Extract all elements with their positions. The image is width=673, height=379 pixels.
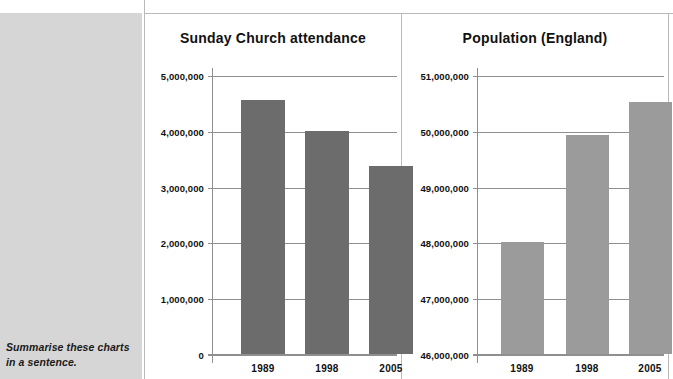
y-axis-label-church: 3,000,000 bbox=[161, 182, 204, 193]
gridline bbox=[213, 76, 397, 77]
bar-population-1998 bbox=[566, 135, 609, 354]
y-tick-mark bbox=[208, 243, 213, 244]
bar-church-1998 bbox=[305, 131, 349, 354]
y-tick-mark bbox=[208, 132, 213, 133]
x-axis-label-church-2005: 2005 bbox=[379, 363, 402, 374]
y-axis-label-population: 50,000,000 bbox=[420, 126, 469, 137]
y-tick-mark bbox=[208, 355, 213, 356]
y-axis-label-church: 0 bbox=[199, 350, 204, 361]
y-axis-church bbox=[212, 68, 213, 363]
chart-panel-church: Sunday Church attendance 5,000,0004,000,… bbox=[145, 14, 401, 379]
plot-area-church: 5,000,0004,000,0003,000,0002,000,0001,00… bbox=[213, 76, 397, 355]
gridline bbox=[478, 355, 664, 356]
chart-title-church: Sunday Church attendance bbox=[145, 30, 401, 46]
y-axis-label-population: 47,000,000 bbox=[420, 294, 469, 305]
y-tick-mark bbox=[473, 299, 478, 300]
bar-population-2005 bbox=[629, 102, 672, 354]
y-axis-label-church: 4,000,000 bbox=[161, 126, 204, 137]
plot-area-population: 51,000,00050,000,00049,000,00048,000,000… bbox=[478, 76, 664, 355]
y-axis-label-population: 48,000,000 bbox=[420, 238, 469, 249]
y-axis-label-population: 51,000,000 bbox=[420, 71, 469, 82]
y-tick-mark bbox=[473, 132, 478, 133]
y-axis-population bbox=[477, 68, 478, 363]
prompt-sidebar: Summarise these charts in a sentence. bbox=[0, 13, 142, 379]
page-root: Summarise these charts in a sentence. Su… bbox=[0, 0, 673, 379]
x-axis-label-church-1989: 1989 bbox=[251, 363, 274, 374]
y-axis-label-church: 2,000,000 bbox=[161, 238, 204, 249]
x-axis-label-population-2005: 2005 bbox=[638, 363, 661, 374]
y-tick-mark bbox=[208, 299, 213, 300]
y-axis-label-church: 1,000,000 bbox=[161, 294, 204, 305]
prompt-text: Summarise these charts in a sentence. bbox=[6, 340, 138, 370]
bar-population-1989 bbox=[501, 242, 544, 354]
y-tick-mark bbox=[473, 76, 478, 77]
y-tick-mark bbox=[208, 76, 213, 77]
bar-church-1989 bbox=[241, 100, 285, 354]
x-axis-label-population-1989: 1989 bbox=[510, 363, 533, 374]
y-tick-mark bbox=[473, 355, 478, 356]
x-axis-label-population-1998: 1998 bbox=[575, 363, 598, 374]
y-tick-mark bbox=[208, 188, 213, 189]
y-axis-label-church: 5,000,000 bbox=[161, 71, 204, 82]
gridline bbox=[213, 355, 397, 356]
y-tick-mark bbox=[473, 188, 478, 189]
y-axis-label-population: 46,000,000 bbox=[420, 350, 469, 361]
gridline bbox=[478, 76, 664, 77]
x-axis-label-church-1998: 1998 bbox=[315, 363, 338, 374]
y-axis-label-population: 49,000,000 bbox=[420, 182, 469, 193]
chart-panel-population: Population (England) 51,000,00050,000,00… bbox=[402, 14, 668, 379]
y-tick-mark bbox=[473, 243, 478, 244]
chart-title-population: Population (England) bbox=[402, 30, 668, 46]
